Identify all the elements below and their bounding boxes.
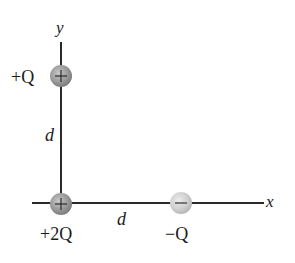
charge-top [50, 65, 72, 87]
y-axis-label: y [54, 18, 64, 37]
charge-origin-label-text: +2Q [40, 224, 72, 244]
distance-vertical-label: d [45, 125, 55, 145]
charge-top-label: +Q [11, 67, 34, 87]
charge-right [170, 192, 192, 214]
charge-top-label-text: +Q [11, 67, 34, 87]
charge-right-label: −Q [165, 224, 188, 244]
charge-origin-label: +2Q [40, 224, 72, 244]
charge-right-label-text: −Q [165, 224, 188, 244]
distance-horizontal-label: d [117, 209, 127, 229]
charge-origin [50, 193, 72, 215]
x-axis-label: x [265, 192, 274, 211]
charge-diagram: y x +Q +2Q −Q d d [0, 0, 295, 263]
